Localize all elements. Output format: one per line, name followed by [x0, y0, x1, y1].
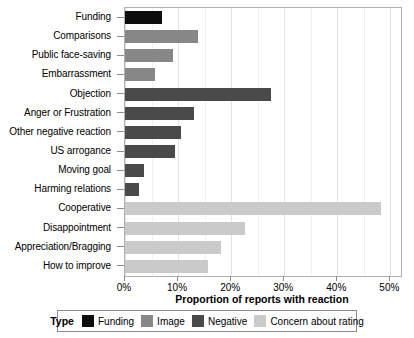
y-axis-label: Comparisons: [0, 26, 114, 45]
bar[interactable]: [125, 145, 175, 158]
x-axis-tick-label: 40%: [326, 282, 346, 293]
y-axis-label: Objection: [0, 84, 114, 103]
y-axis-label: Public face-saving: [0, 45, 114, 64]
y-axis-label: Embarrassment: [0, 64, 114, 83]
y-axis-label: Cooperative: [0, 198, 114, 217]
x-axis-tick-label: 30%: [273, 282, 293, 293]
bar-slot: [125, 27, 401, 46]
y-axis-label: Anger or Frustration: [0, 103, 114, 122]
bar[interactable]: [125, 126, 181, 139]
legend-item[interactable]: Image: [141, 315, 185, 327]
bar-slot: [125, 85, 401, 104]
legend-item-label: Image: [157, 316, 185, 327]
y-axis-label: US arrogance: [0, 141, 114, 160]
x-axis-tick: [336, 276, 337, 281]
bar[interactable]: [125, 241, 221, 254]
x-axis-tick: [230, 276, 231, 281]
x-axis-tick-label: 10%: [167, 282, 187, 293]
legend-item-label: Funding: [98, 316, 134, 327]
y-axis-tick: [117, 198, 124, 217]
y-axis-tick: [117, 141, 124, 160]
y-axis-tick: [117, 237, 124, 256]
x-axis-tick: [177, 276, 178, 281]
legend-item-label: Negative: [208, 316, 247, 327]
bar-slot: [125, 46, 401, 65]
x-axis-tick: [389, 276, 390, 281]
x-axis-tick-label: 20%: [220, 282, 240, 293]
bar-slot: [125, 180, 401, 199]
bar-slot: [125, 199, 401, 218]
bar[interactable]: [125, 183, 139, 196]
bar-slot: [125, 257, 401, 276]
x-axis-tick: [283, 276, 284, 281]
y-axis-label: Appreciation/Bragging: [0, 237, 114, 256]
legend: Type FundingImageNegativeConcern about r…: [57, 310, 357, 332]
bar[interactable]: [125, 222, 245, 235]
y-axis-ticks: [117, 7, 124, 275]
legend-swatch-concern: [254, 315, 266, 327]
bar[interactable]: [125, 164, 144, 177]
y-axis-label: Funding: [0, 7, 114, 26]
y-axis-tick: [117, 256, 124, 275]
y-axis-tick: [117, 45, 124, 64]
bar[interactable]: [125, 202, 381, 215]
bar-slot: [125, 104, 401, 123]
bar-slot: [125, 65, 401, 84]
y-axis-tick: [117, 122, 124, 141]
bar[interactable]: [125, 107, 194, 120]
bar-slot: [125, 142, 401, 161]
y-axis-tick: [117, 179, 124, 198]
legend-swatch-funding: [82, 315, 94, 327]
bar[interactable]: [125, 11, 162, 24]
bar-slot: [125, 8, 401, 27]
legend-items: FundingImageNegativeConcern about rating: [82, 315, 364, 327]
y-axis-label: Other negative reaction: [0, 122, 114, 141]
y-axis-label: Harming relations: [0, 179, 114, 198]
legend-item[interactable]: Funding: [82, 315, 134, 327]
plot-panel: [124, 7, 402, 277]
legend-item[interactable]: Concern about rating: [254, 315, 363, 327]
plot-area-wrapper: FundingComparisonsPublic face-savingEmba…: [0, 0, 414, 300]
bar-series-container: [125, 8, 401, 276]
y-axis-tick: [117, 7, 124, 26]
y-axis-tick: [117, 84, 124, 103]
bar[interactable]: [125, 68, 155, 81]
bar[interactable]: [125, 30, 198, 43]
y-axis-tick: [117, 64, 124, 83]
bar[interactable]: [125, 260, 208, 273]
x-axis-title: Proportion of reports with reaction: [124, 293, 400, 305]
bar-slot: [125, 161, 401, 180]
bar[interactable]: [125, 49, 173, 62]
y-axis-label: Disappointment: [0, 218, 114, 237]
bar-slot: [125, 238, 401, 257]
y-axis-tick: [117, 218, 124, 237]
y-axis-category-labels: FundingComparisonsPublic face-savingEmba…: [0, 7, 114, 275]
bar-slot: [125, 123, 401, 142]
x-axis-tick: [124, 276, 125, 281]
bar-slot: [125, 219, 401, 238]
y-axis-tick: [117, 103, 124, 122]
legend-item[interactable]: Negative: [192, 315, 247, 327]
y-axis-label: How to improve: [0, 256, 114, 275]
y-axis-tick: [117, 160, 124, 179]
x-axis-tick-label: 50%: [379, 282, 399, 293]
bar-chart: FundingComparisonsPublic face-savingEmba…: [0, 0, 414, 338]
y-axis-label: Moving goal: [0, 160, 114, 179]
x-axis-tick-label: 0%: [117, 282, 131, 293]
y-axis-tick: [117, 26, 124, 45]
legend-title: Type: [50, 315, 74, 327]
legend-swatch-image: [141, 315, 153, 327]
legend-swatch-negative: [192, 315, 204, 327]
bar[interactable]: [125, 88, 271, 101]
legend-item-label: Concern about rating: [270, 316, 363, 327]
